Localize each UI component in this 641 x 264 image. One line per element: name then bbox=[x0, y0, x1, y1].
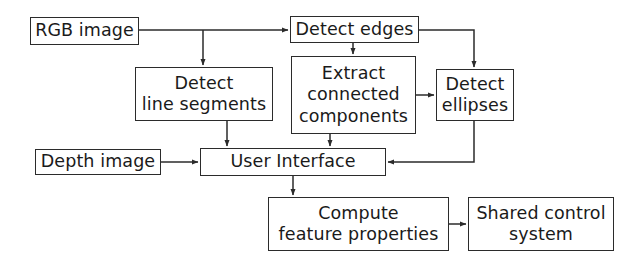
node-user_interface[interactable]: User Interface bbox=[200, 148, 386, 176]
node-label-depth_image: Depth image bbox=[36, 151, 160, 172]
node-compute_features[interactable]: Compute feature properties bbox=[268, 197, 449, 251]
node-label-extract_cc: Extract connected components bbox=[292, 63, 415, 127]
node-rgb_image[interactable]: RGB image bbox=[30, 17, 139, 45]
node-label-detect_ellipses: Detect ellipses bbox=[437, 74, 513, 117]
node-label-user_interface: User Interface bbox=[201, 151, 385, 172]
connector-detect-edges-to-ellipses bbox=[419, 30, 474, 67]
node-shared_control[interactable]: Shared control system bbox=[468, 197, 614, 251]
node-label-shared_control: Shared control system bbox=[469, 203, 613, 246]
node-detect_lines[interactable]: Detect line segments bbox=[135, 67, 273, 121]
node-extract_cc[interactable]: Extract connected components bbox=[291, 56, 416, 134]
node-label-detect_edges: Detect edges bbox=[291, 19, 418, 40]
node-depth_image[interactable]: Depth image bbox=[35, 149, 161, 175]
node-detect_ellipses[interactable]: Detect ellipses bbox=[436, 69, 514, 121]
node-label-compute_features: Compute feature properties bbox=[269, 203, 448, 246]
node-label-rgb_image: RGB image bbox=[31, 20, 138, 41]
node-detect_edges[interactable]: Detect edges bbox=[290, 16, 419, 43]
flowchart-canvas: RGB imageDetect edgesDetect line segment… bbox=[0, 0, 641, 264]
node-label-detect_lines: Detect line segments bbox=[136, 73, 272, 116]
